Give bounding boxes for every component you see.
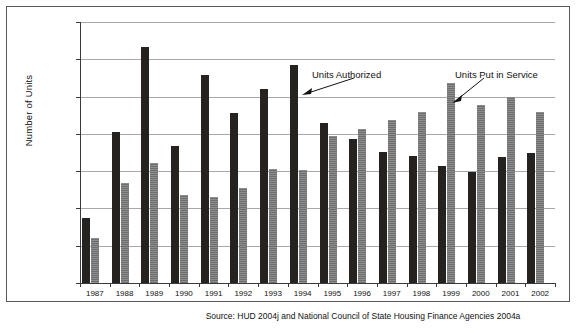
- x-tick-mark: [258, 283, 259, 287]
- bar-group: [80, 22, 110, 283]
- bar-units-put-in-service: [388, 120, 396, 283]
- x-tick-label: 2001: [496, 289, 526, 298]
- bar-group: [377, 22, 407, 283]
- bar-units-put-in-service: [477, 105, 485, 283]
- bar-group: [288, 22, 318, 283]
- bar-units-put-in-service: [299, 170, 307, 283]
- bar-group: [407, 22, 437, 283]
- x-tick-mark: [555, 283, 556, 287]
- bar-units-put-in-service: [150, 163, 158, 283]
- x-tick-mark: [139, 283, 140, 287]
- bar-units-put-in-service: [507, 97, 515, 283]
- bar-units-put-in-service: [536, 112, 544, 284]
- x-tick-mark: [228, 283, 229, 287]
- bar-units-put-in-service: [91, 238, 99, 283]
- bar-units-authorized: [201, 75, 209, 283]
- x-tick-mark: [377, 283, 378, 287]
- bar-group: [318, 22, 348, 283]
- x-tick-label: 1990: [169, 289, 199, 298]
- x-tick-label: 1995: [318, 289, 348, 298]
- bar-group: [496, 22, 526, 283]
- x-tick-mark: [169, 283, 170, 287]
- x-tick-label: 1989: [139, 289, 169, 298]
- annotation-units-authorized-arrow: [300, 76, 356, 98]
- bar-units-authorized: [409, 156, 417, 283]
- bar-units-authorized: [171, 146, 179, 283]
- x-tick-label: 1999: [436, 289, 466, 298]
- bar-group: [228, 22, 258, 283]
- source-text: Source: HUD 2004j and National Council o…: [58, 311, 521, 321]
- x-tick-label: 1992: [228, 289, 258, 298]
- x-tick-label: 1991: [199, 289, 229, 298]
- bar-units-put-in-service: [329, 136, 337, 283]
- bar-units-put-in-service: [358, 129, 366, 283]
- x-tick-mark: [199, 283, 200, 287]
- source-note: Source: HUD 2004j and National Council o…: [0, 311, 578, 321]
- x-tick-label: 1993: [258, 289, 288, 298]
- chart-figure: Number of Units 140,000120,000100,00080,…: [0, 0, 578, 333]
- x-tick-label: 1996: [347, 289, 377, 298]
- bar-group: [436, 22, 466, 283]
- y-axis-title: Number of Units: [23, 51, 34, 171]
- bar-units-put-in-service: [210, 197, 218, 283]
- x-tick-mark: [525, 283, 526, 287]
- bar-group: [258, 22, 288, 283]
- bar-units-put-in-service: [239, 188, 247, 283]
- bar-group: [525, 22, 555, 283]
- x-tick-label: 1998: [407, 289, 437, 298]
- bar-units-put-in-service: [418, 112, 426, 283]
- bar-units-authorized: [527, 153, 535, 283]
- bar-group: [110, 22, 140, 283]
- x-tick-mark: [347, 283, 348, 287]
- x-tick-mark: [288, 283, 289, 287]
- bar-units-authorized: [349, 139, 357, 283]
- bar-units-authorized: [141, 47, 149, 283]
- bar-units-put-in-service: [447, 83, 455, 283]
- x-tick-mark: [80, 283, 81, 287]
- x-tick-label: 2002: [525, 289, 555, 298]
- bar-units-authorized: [379, 152, 387, 283]
- x-tick-label: 1987: [80, 289, 110, 298]
- bar-units-authorized: [82, 218, 90, 283]
- bar-units-authorized: [112, 132, 120, 283]
- bar-units-authorized: [468, 172, 476, 283]
- bar-units-authorized: [290, 65, 298, 283]
- x-tick-mark: [466, 283, 467, 287]
- bar-units-authorized: [320, 123, 328, 283]
- x-tick-label: 1994: [288, 289, 318, 298]
- bar-units-put-in-service: [180, 195, 188, 283]
- bar-group: [139, 22, 169, 283]
- bar-group: [169, 22, 199, 283]
- x-tick-mark: [318, 283, 319, 287]
- bar-units-authorized: [498, 157, 506, 283]
- bar-units-put-in-service: [269, 169, 277, 283]
- x-tick-mark: [436, 283, 437, 287]
- x-tick-mark: [496, 283, 497, 287]
- bar-group: [199, 22, 229, 283]
- x-tick-mark: [407, 283, 408, 287]
- bar-group: [466, 22, 496, 283]
- x-tick-label: 1997: [377, 289, 407, 298]
- bar-group: [347, 22, 377, 283]
- x-tick-mark: [110, 283, 111, 287]
- x-tick-label: 1988: [110, 289, 140, 298]
- annotation-units-put-in-service-arrow: [448, 76, 488, 106]
- bar-units-put-in-service: [121, 183, 129, 283]
- bar-units-authorized: [260, 89, 268, 283]
- bar-units-authorized: [230, 113, 238, 283]
- x-tick-label: 2000: [466, 289, 496, 298]
- bar-units-authorized: [438, 166, 446, 283]
